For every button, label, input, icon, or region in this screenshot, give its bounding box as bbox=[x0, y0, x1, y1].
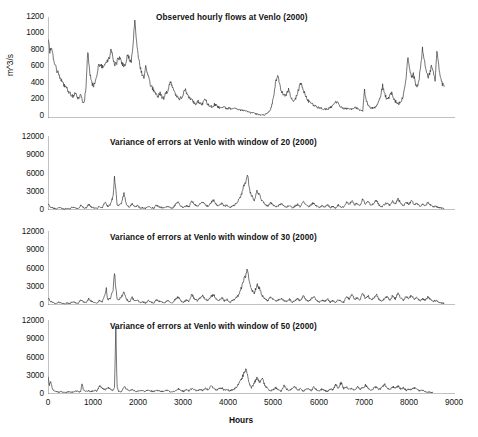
panel-observed-flows: m^3/s 1200 1000 800 600 400 200 0 Observ… bbox=[0, 0, 478, 130]
xtick-6000: 6000 bbox=[304, 398, 334, 407]
xtick-9000: 9000 bbox=[439, 398, 469, 407]
ytick-v30-6000: 6000 bbox=[4, 264, 44, 273]
ytick-600: 600 bbox=[10, 61, 44, 70]
ytick-0: 0 bbox=[10, 111, 44, 120]
ytick-v20-6000: 6000 bbox=[4, 169, 44, 178]
plot-area-2 bbox=[48, 136, 455, 210]
ytick-v50-9000: 9000 bbox=[4, 334, 44, 343]
ytick-v30-12000: 12000 bbox=[4, 227, 44, 236]
ytick-1200: 1200 bbox=[10, 12, 44, 21]
multi-panel-hydrology-figure: m^3/s 1200 1000 800 600 400 200 0 Observ… bbox=[0, 0, 478, 437]
xtick-2000: 2000 bbox=[123, 398, 153, 407]
panel-variance-20: 12000 9000 6000 3000 0 Variance of error… bbox=[0, 130, 478, 228]
ytick-v50-6000: 6000 bbox=[4, 353, 44, 362]
xtick-5000: 5000 bbox=[258, 398, 288, 407]
ytick-v30-0: 0 bbox=[4, 300, 44, 309]
x-axis-label: Hours bbox=[206, 415, 276, 425]
ytick-v50-0: 0 bbox=[4, 389, 44, 398]
panel-variance-30: 12000 9000 6000 3000 0 Variance of error… bbox=[0, 225, 478, 323]
xtick-8000: 8000 bbox=[394, 398, 424, 407]
plot-area-3 bbox=[48, 231, 455, 305]
ytick-200: 200 bbox=[10, 94, 44, 103]
ytick-v20-3000: 3000 bbox=[4, 187, 44, 196]
xtick-0: 0 bbox=[33, 398, 63, 407]
xtick-3000: 3000 bbox=[168, 398, 198, 407]
panel-variance-50: 12000 9000 6000 3000 0 Variance of error… bbox=[0, 314, 478, 437]
ytick-v50-12000: 12000 bbox=[4, 316, 44, 325]
ytick-v50-3000: 3000 bbox=[4, 371, 44, 380]
plot-area-1 bbox=[48, 17, 455, 118]
ytick-v20-12000: 12000 bbox=[4, 132, 44, 141]
xtick-4000: 4000 bbox=[213, 398, 243, 407]
plot-area-4 bbox=[48, 320, 455, 394]
ytick-v20-0: 0 bbox=[4, 205, 44, 214]
xtick-1000: 1000 bbox=[78, 398, 108, 407]
ytick-v30-3000: 3000 bbox=[4, 282, 44, 291]
ytick-1000: 1000 bbox=[10, 28, 44, 37]
ytick-v20-9000: 9000 bbox=[4, 150, 44, 159]
xtick-7000: 7000 bbox=[349, 398, 379, 407]
ytick-800: 800 bbox=[10, 45, 44, 54]
ytick-400: 400 bbox=[10, 78, 44, 87]
ytick-v30-9000: 9000 bbox=[4, 245, 44, 254]
